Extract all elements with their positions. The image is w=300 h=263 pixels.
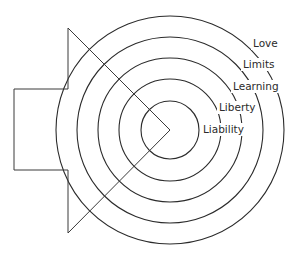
label-liberty: Liberty (219, 101, 256, 113)
pointer-diagonal-bottom (68, 130, 170, 233)
ring-labels: Liability Liberty Learning Limits Love (201, 37, 279, 136)
pointer-diagonal-top (68, 28, 170, 130)
label-liability: Liability (203, 123, 244, 135)
concentric-rings-diagram: Liability Liberty Learning Limits Love (0, 0, 300, 263)
label-learning: Learning (233, 80, 279, 92)
pointer-shape (14, 28, 170, 233)
label-limits: Limits (243, 58, 275, 70)
label-love: Love (253, 37, 278, 49)
